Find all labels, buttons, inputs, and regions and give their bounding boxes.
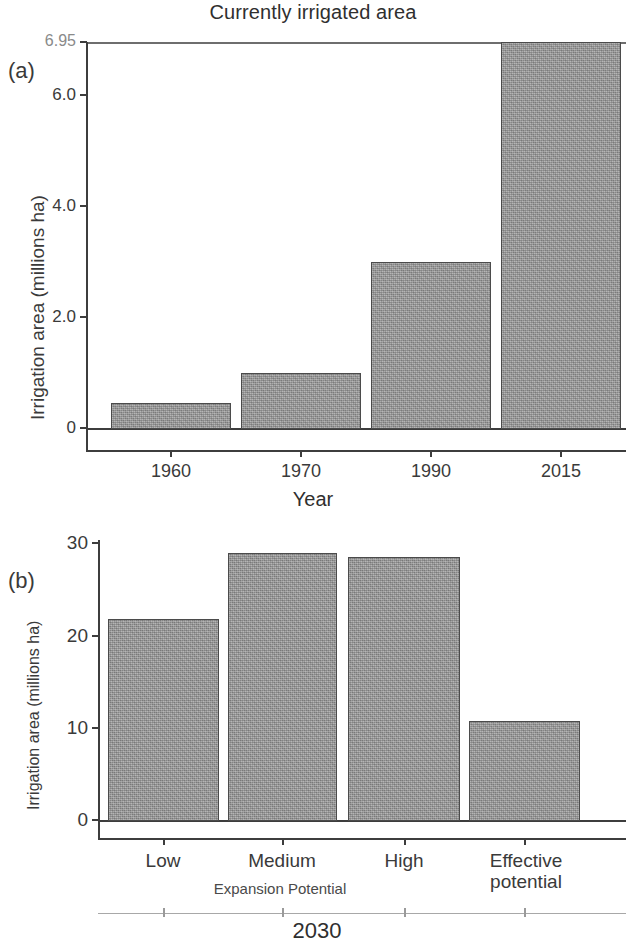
panel-b-group-year-label: 2030 [262, 920, 372, 942]
bar-high [348, 557, 460, 821]
panel-b-ytick-label-30: 30 [32, 533, 88, 552]
figure-root: Currently irrigated area (a) Irrigation … [0, 0, 626, 948]
panel-b-y-axis-spine [98, 540, 100, 822]
panel-b-xtick-label-high: High [354, 851, 454, 872]
panel-b-group-tick-low [163, 908, 165, 917]
panel-b-xtick-mark-effective [524, 838, 526, 845]
bar-effective-potential [469, 721, 580, 821]
panel-b-ytick-mark-30 [92, 542, 99, 544]
panel-b-ytick-label-20: 20 [32, 626, 88, 645]
panel-b-x-axis-spine [98, 838, 626, 840]
panel-b-xtick-mark-low [163, 838, 165, 845]
panel-b-group-tick-high [404, 908, 406, 917]
panel-b-xtick-mark-medium [282, 838, 284, 845]
bar-low [108, 619, 219, 821]
bar-medium [228, 553, 337, 821]
panel-b-ytick-label-0: 0 [32, 810, 88, 829]
panel-b-ytick-mark-0 [92, 819, 99, 821]
panel-b-ytick-label-10: 10 [32, 718, 88, 737]
panel-b-xtick-label-effective: Effective potential [472, 851, 580, 892]
panel-b-xtick-label-effective-line2: potential [472, 872, 580, 893]
panel-b-y-axis-label: Irrigation area (millions ha) [26, 621, 42, 810]
panel-b-xtick-label-effective-line1: Effective [472, 851, 580, 872]
panel-b-group-axis-line [98, 913, 626, 914]
panel-b-group-tick-effective [524, 908, 526, 917]
panel-b-group-tick-medium [282, 908, 284, 917]
panel-b-ytick-mark-20 [92, 635, 99, 637]
panel-b-xtick-label-low: Low [113, 851, 213, 872]
panel-b: (b) Irrigation area (millions ha) 30 20 … [0, 0, 626, 948]
panel-b-xtick-label-medium: Medium [232, 851, 332, 872]
panel-b-xtick-mark-high [404, 838, 406, 845]
panel-b-letter: (b) [8, 570, 35, 592]
panel-b-ytick-mark-10 [92, 727, 99, 729]
panel-b-x-axis-label: Expansion Potential [140, 881, 420, 896]
panel-b-x-axis-left-cap [98, 820, 100, 838]
